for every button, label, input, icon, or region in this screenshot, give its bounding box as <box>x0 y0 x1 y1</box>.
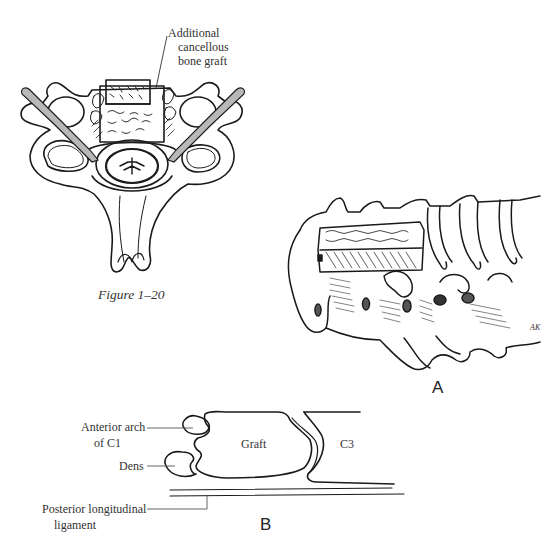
label-of-c1: of C1 <box>94 436 121 450</box>
label-ligament: ligament <box>54 518 96 532</box>
label-anterior-arch: Anterior arch <box>81 420 145 434</box>
panel-b-schematic <box>0 0 555 535</box>
label-posterior-longitudinal: Posterior longitudinal <box>42 502 146 516</box>
label-graft: Graft <box>241 437 266 451</box>
label-c3: C3 <box>340 437 354 451</box>
panel-b-letter: B <box>260 515 271 535</box>
pll-leader <box>147 496 207 509</box>
label-dens: Dens <box>119 459 144 473</box>
